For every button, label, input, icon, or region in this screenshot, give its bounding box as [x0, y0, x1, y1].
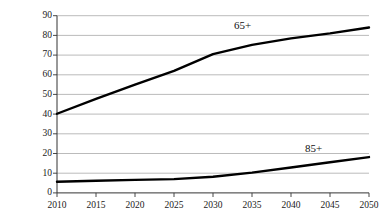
x-tick-label-2035: 2035 — [235, 201, 269, 211]
x-tick-label-2025: 2025 — [157, 201, 191, 211]
x-tick-label-2030: 2030 — [196, 201, 230, 211]
series-label-85plus: 85+ — [305, 143, 322, 154]
x-axis-ticks — [57, 193, 369, 197]
series-label-65plus: 65+ — [234, 20, 251, 31]
y-axis-ticks — [53, 16, 57, 193]
chart-container: Millions 90 80 70 60 50 40 30 20 10 0 — [0, 0, 383, 223]
plot-area — [0, 0, 383, 223]
x-tick-label-2020: 2020 — [118, 201, 152, 211]
x-tick-label-2015: 2015 — [79, 201, 113, 211]
line-series-65plus — [57, 28, 369, 114]
x-tick-label-2040: 2040 — [274, 201, 308, 211]
x-tick-label-2045: 2045 — [313, 201, 347, 211]
x-tick-label-2010: 2010 — [40, 201, 74, 211]
line-series-85plus — [57, 157, 369, 182]
x-tick-label-2050: 2050 — [352, 201, 383, 211]
